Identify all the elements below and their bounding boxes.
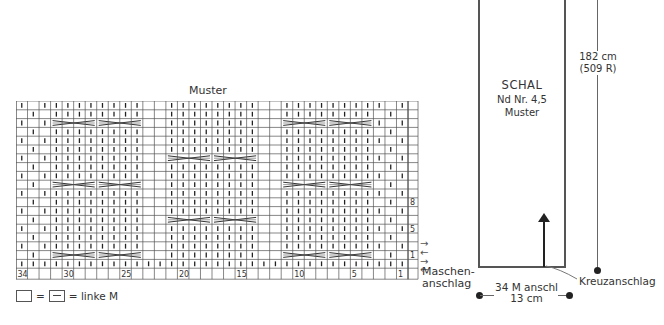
svg-text:34: 34 [18, 270, 28, 279]
knitting-chart: 34302520151051851 [16, 101, 420, 283]
dimension-dot-icon [566, 292, 573, 299]
dash-square-icon [49, 290, 65, 302]
scarf-label: SCHAL Nd Nr. 4,5 Muster [478, 78, 566, 118]
needle-size: Nd Nr. 4,5 [478, 94, 566, 105]
svg-text:10: 10 [294, 270, 304, 279]
svg-text:1: 1 [398, 270, 403, 279]
arrow-head-icon [538, 213, 550, 222]
length-dimension-line [597, 0, 598, 270]
svg-text:8: 8 [410, 198, 415, 207]
svg-text:25: 25 [121, 270, 131, 279]
empty-square-icon [16, 290, 32, 302]
pattern-name: Muster [478, 107, 566, 118]
svg-text:15: 15 [237, 270, 247, 279]
length-label: 182 cm (509 R) [578, 51, 618, 75]
knit-direction-arrow-icon [543, 215, 545, 267]
svg-text:5: 5 [352, 270, 357, 279]
cast-on-label: Maschen- anschlag [422, 266, 475, 290]
dimension-dot-icon [594, 267, 601, 274]
legend-text: = linke M [69, 290, 118, 302]
cast-on-type-label: Kreuzanschlag [579, 275, 656, 287]
svg-text:30: 30 [64, 270, 74, 279]
svg-text:5: 5 [410, 225, 415, 234]
scarf-outline [478, 0, 566, 268]
scarf-title: SCHAL [478, 78, 566, 92]
legend: = = linke M [16, 290, 118, 302]
chart-title: Muster [189, 84, 227, 97]
chart-grid: 34302520151051851 [16, 101, 420, 283]
svg-text:1: 1 [410, 251, 415, 260]
width-dimension-line [480, 295, 494, 296]
svg-text:20: 20 [179, 270, 189, 279]
width-label: 34 M anschl 13 cm [495, 282, 558, 304]
